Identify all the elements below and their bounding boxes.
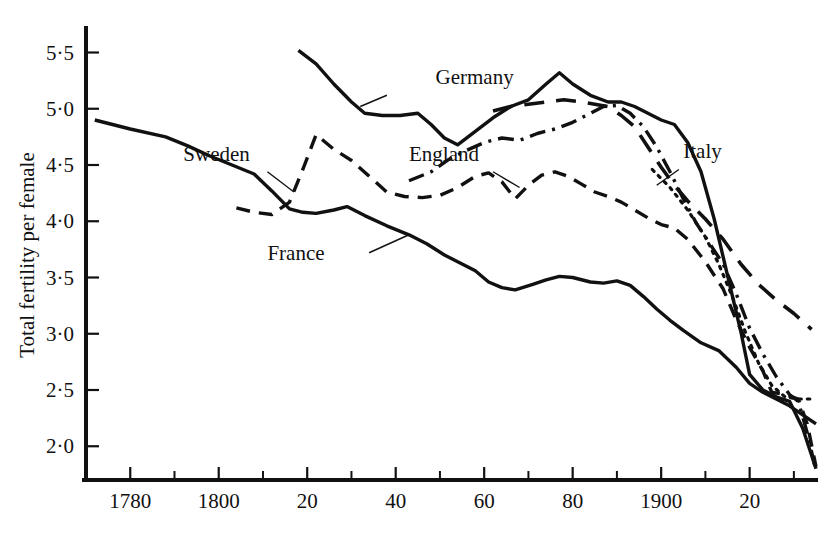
y-tick-label: 5·5	[46, 41, 74, 65]
x-tick-label: 40	[385, 489, 406, 513]
series-lines	[95, 50, 816, 471]
series-label-italy: Italy	[683, 139, 722, 163]
series-label-germany: Germany	[436, 65, 515, 89]
x-tick-label: 80	[562, 489, 583, 513]
series-annotations: FranceSwedenEnglandGermanyItaly	[183, 65, 722, 265]
fertility-line-chart: 5·55·04·54·03·53·02·52·0 178018002040608…	[0, 0, 836, 535]
x-tick-label: 1780	[109, 489, 151, 513]
leader-line-france	[369, 235, 409, 253]
y-tick-label: 2·5	[46, 378, 74, 402]
y-tick-label: 4·5	[46, 153, 74, 177]
x-tick-label: 20	[739, 489, 760, 513]
series-label-sweden: Sweden	[183, 142, 250, 166]
y-axis-title-text: Total fertility per female	[15, 152, 39, 358]
chart-canvas: 5·55·04·54·03·53·02·52·0 178018002040608…	[0, 0, 836, 535]
x-axis-tick-labels: 1780180020406080190020	[109, 489, 760, 513]
leader-line-germany	[360, 95, 387, 106]
series-line-france	[95, 120, 816, 424]
axes-layer	[84, 28, 816, 480]
x-tick-label: 1900	[640, 489, 682, 513]
y-axis-title: Total fertility per female	[15, 152, 39, 358]
series-label-england: England	[409, 142, 479, 166]
series-label-france: France	[267, 241, 324, 265]
x-tick-label: 60	[474, 489, 495, 513]
y-tick-label: 3·5	[46, 266, 74, 290]
y-tick-label: 4·0	[46, 209, 74, 233]
axis-ticks	[86, 53, 794, 481]
x-tick-label: 1800	[198, 489, 240, 513]
y-axis-tick-labels: 5·55·04·54·03·53·02·52·0	[46, 41, 74, 459]
series-line-germany	[298, 50, 816, 469]
y-tick-label: 3·0	[46, 322, 74, 346]
y-tick-label: 2·0	[46, 434, 74, 458]
series-line-sweden	[236, 135, 816, 467]
x-tick-label: 20	[297, 489, 318, 513]
y-tick-label: 5·0	[46, 97, 74, 121]
